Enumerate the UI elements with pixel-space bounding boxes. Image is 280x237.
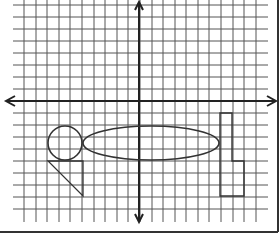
right-triangle-shape (48, 161, 83, 196)
ellipse-shape (83, 126, 219, 160)
grid-lines (13, 0, 268, 222)
circle-shape (48, 126, 82, 160)
coordinate-grid-diagram (0, 0, 280, 237)
